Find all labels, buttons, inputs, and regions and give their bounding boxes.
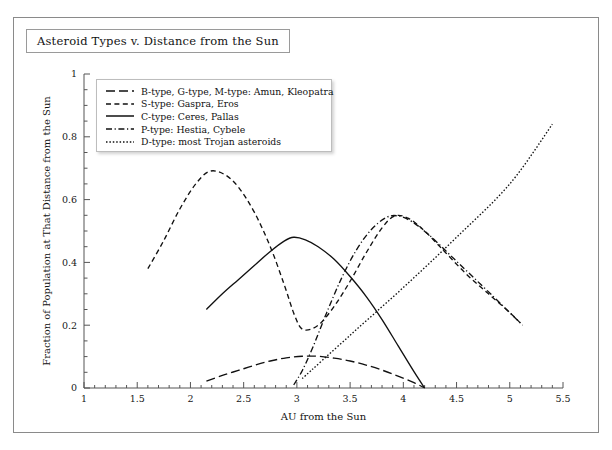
legend-label-b-type: B-type, G-type, M-type: Amun, Kleopatra bbox=[141, 86, 333, 97]
y-tick-label: 0.8 bbox=[62, 131, 77, 142]
chart-legend: B-type, G-type, M-type: Amun, Kleopatra … bbox=[96, 79, 332, 152]
x-tick-label: 1.5 bbox=[130, 393, 145, 404]
y-tick-label: 1 bbox=[71, 68, 77, 79]
y-axis-title: Fraction of Population at That Distance … bbox=[41, 96, 52, 366]
x-tick-label: 3 bbox=[294, 393, 300, 404]
legend-item-d-type: D-type: most Trojan asteroids bbox=[105, 135, 323, 148]
data-curve-d-type bbox=[302, 124, 552, 378]
x-tick-label: 2.5 bbox=[236, 393, 251, 404]
data-curve-c-type bbox=[206, 237, 424, 388]
x-tick-label: 5 bbox=[507, 393, 513, 404]
y-tick-label: 0.4 bbox=[62, 257, 77, 268]
data-curve-s-type bbox=[148, 171, 523, 330]
legend-line-c-type-icon bbox=[105, 111, 135, 121]
x-axis-title: AU from the Sun bbox=[280, 411, 367, 422]
y-tick-label: 0 bbox=[71, 382, 77, 393]
x-tick-label: 1 bbox=[81, 393, 87, 404]
legend-line-s-type-icon bbox=[105, 99, 135, 109]
legend-line-p-type-icon bbox=[105, 124, 135, 134]
x-tick-label: 2 bbox=[187, 393, 193, 404]
data-curve-p-type bbox=[294, 216, 523, 385]
legend-label-c-type: C-type: Ceres, Pallas bbox=[141, 111, 239, 122]
asteroid-types-line-chart: 11.522.533.544.555.500.20.40.60.81AU fro… bbox=[0, 0, 612, 450]
legend-line-d-type-icon bbox=[105, 137, 135, 147]
legend-label-d-type: D-type: most Trojan asteroids bbox=[141, 136, 281, 147]
legend-item-c-type: C-type: Ceres, Pallas bbox=[105, 110, 323, 123]
data-curves-group bbox=[148, 124, 552, 388]
x-tick-label: 4 bbox=[400, 393, 406, 404]
legend-label-s-type: S-type: Gaspra, Eros bbox=[141, 98, 239, 109]
x-tick-label: 3.5 bbox=[343, 393, 358, 404]
legend-label-p-type: P-type: Hestia, Cybele bbox=[141, 124, 245, 135]
y-tick-label: 0.2 bbox=[62, 320, 77, 331]
legend-line-b-type-icon bbox=[105, 86, 135, 96]
screenshot-root: Asteroid Types v. Distance from the Sun … bbox=[0, 0, 612, 450]
legend-item-b-type: B-type, G-type, M-type: Amun, Kleopatra bbox=[105, 85, 323, 98]
x-tick-label: 5.5 bbox=[555, 393, 570, 404]
legend-item-s-type: S-type: Gaspra, Eros bbox=[105, 98, 323, 111]
data-curve-b-type bbox=[206, 356, 424, 388]
legend-item-p-type: P-type: Hestia, Cybele bbox=[105, 123, 323, 136]
x-tick-label: 4.5 bbox=[449, 393, 464, 404]
y-tick-label: 0.6 bbox=[62, 194, 77, 205]
